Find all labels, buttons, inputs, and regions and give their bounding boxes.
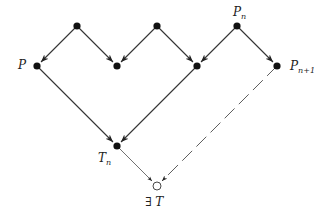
diagram-canvas [0,0,329,215]
node-mid2 [193,62,200,69]
edge-mid2-tn [121,66,197,142]
label-tn-main: T [98,151,106,165]
edge-top1-mid1 [77,26,113,62]
label-pn-main: P [233,5,241,19]
edge-top1-p [41,26,77,62]
label-tn-sub: n [106,158,111,167]
node-mid1 [113,62,120,69]
label-exists-t: ∃ T [145,196,163,208]
edge-tn-t [117,146,152,181]
label-pn-sub: n [241,12,246,21]
label-p: P [18,59,26,71]
node-p [33,62,40,69]
edge-top2-mid2 [157,26,193,62]
label-tn: Tn [98,152,111,167]
label-p-text: P [18,58,26,72]
node-top1 [73,22,80,29]
label-pn1: Pn+1 [290,60,315,75]
label-pn: Pn [233,6,246,21]
edge-top2-mid1 [121,26,157,62]
edge-p-tn [37,66,113,142]
edge-pn-mid2 [201,26,237,62]
node-exists-t [153,182,161,190]
label-pn1-main: P [290,59,298,73]
label-exists-t-text: ∃ T [145,195,163,209]
node-top2 [153,22,160,29]
node-tn [113,142,120,149]
node-pn1 [273,62,280,69]
edge-pn-pn1 [237,26,273,62]
node-pn [233,22,240,29]
label-pn1-sub: n+1 [298,66,315,75]
